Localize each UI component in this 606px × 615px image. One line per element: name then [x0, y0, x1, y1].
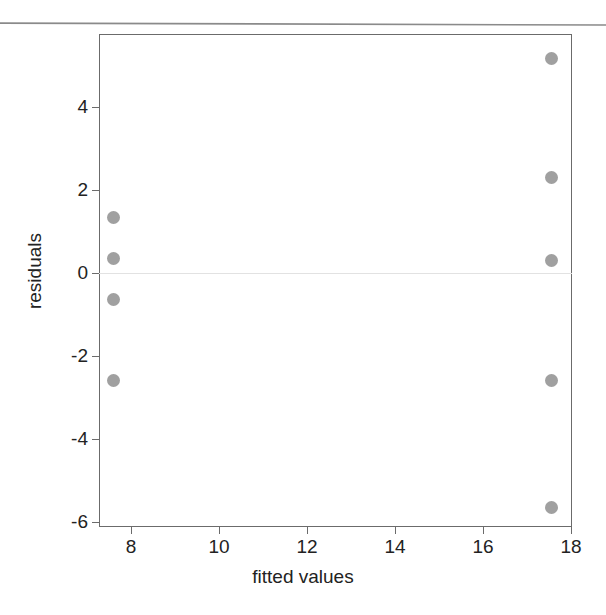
x-tick-mark — [395, 527, 396, 534]
x-tick-label: 16 — [453, 536, 513, 558]
data-point — [107, 252, 120, 265]
x-tick-mark — [131, 527, 132, 534]
x-tick-label: 14 — [365, 536, 425, 558]
zero-reference-line — [99, 273, 572, 274]
data-point — [545, 52, 558, 65]
x-tick-label: 12 — [277, 536, 337, 558]
x-tick-mark — [571, 527, 572, 534]
page-rule-svg — [0, 22, 606, 26]
y-tick-mark — [92, 273, 99, 274]
y-axis-label: residuals — [24, 171, 46, 371]
y-tick-mark — [92, 107, 99, 108]
data-point — [545, 374, 558, 387]
x-tick-mark — [219, 527, 220, 534]
y-tick-label: -4 — [46, 428, 88, 450]
y-tick-label: -2 — [46, 345, 88, 367]
data-point — [107, 374, 120, 387]
page-rule-artifact — [0, 12, 606, 16]
data-point — [545, 254, 558, 267]
x-tick-mark — [483, 527, 484, 534]
residual-scatter-figure: fitted values residuals 81012141618420-2… — [0, 0, 606, 615]
data-point — [545, 171, 558, 184]
x-tick-label: 10 — [189, 536, 249, 558]
y-tick-label: 4 — [46, 96, 88, 118]
data-point — [545, 501, 558, 514]
data-point — [107, 211, 120, 224]
data-point — [107, 293, 120, 306]
y-tick-label: 2 — [46, 179, 88, 201]
x-tick-label: 8 — [101, 536, 161, 558]
page-rule-line — [0, 23, 606, 25]
plot-canvas — [99, 34, 572, 527]
y-tick-mark — [92, 356, 99, 357]
y-tick-mark — [92, 522, 99, 523]
y-tick-mark — [92, 190, 99, 191]
y-tick-label: -6 — [46, 511, 88, 533]
x-tick-label: 18 — [541, 536, 601, 558]
y-tick-mark — [92, 439, 99, 440]
x-tick-mark — [307, 527, 308, 534]
y-tick-label: 0 — [46, 262, 88, 284]
x-axis-label: fitted values — [0, 566, 606, 588]
